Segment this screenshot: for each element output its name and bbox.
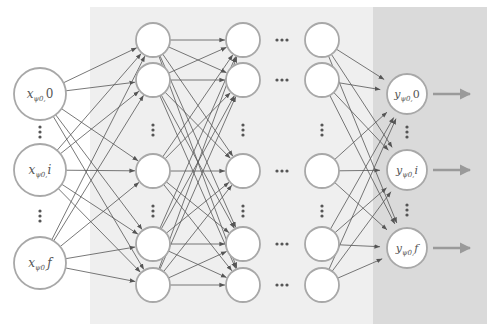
vertical-ellipsis-icon [241,214,244,217]
vertical-ellipsis-icon [405,135,408,138]
vertical-ellipsis-icon [38,125,41,128]
hidden-node-c0-r1 [136,63,170,97]
output-node-yi [387,150,427,190]
vertical-ellipsis-icon [405,203,408,206]
horizontal-ellipsis-icon [280,169,283,172]
horizontal-ellipsis-icon [280,38,283,41]
input-node-xi [14,144,66,196]
vertical-ellipsis-icon [241,123,244,126]
vertical-ellipsis-icon [38,130,41,133]
input-node-x0 [14,68,66,120]
vertical-ellipsis-icon [38,135,41,138]
vertical-ellipsis-icon [241,133,244,136]
vertical-ellipsis-icon [320,214,323,217]
vertical-ellipsis-icon [151,128,154,131]
hidden-node-c2-r1 [305,63,339,97]
vertical-ellipsis-icon [405,208,408,211]
vertical-ellipsis-icon [151,123,154,126]
horizontal-ellipsis-icon [285,169,288,172]
hidden-node-c2-r0 [305,23,339,57]
horizontal-ellipsis-icon [285,78,288,81]
horizontal-ellipsis-icon [275,78,278,81]
horizontal-ellipsis-icon [280,283,283,286]
vertical-ellipsis-icon [241,204,244,207]
hidden-node-c2-r2 [305,154,339,188]
hidden-node-c1-r4 [226,268,260,302]
hidden-node-c2-r4 [305,268,339,302]
input-node-xf [14,237,66,289]
horizontal-ellipsis-icon [275,283,278,286]
horizontal-ellipsis-icon [280,242,283,245]
vertical-ellipsis-icon [241,209,244,212]
vertical-ellipsis-icon [38,209,41,212]
vertical-ellipsis-icon [405,125,408,128]
horizontal-ellipsis-icon [280,78,283,81]
vertical-ellipsis-icon [320,128,323,131]
horizontal-ellipsis-icon [285,283,288,286]
neural-network-diagram: xψ0,0xψ0,ixψ0,fyψ0,0yψ0,iyψ0,f [0,0,494,332]
horizontal-ellipsis-icon [285,38,288,41]
vertical-ellipsis-icon [405,130,408,133]
vertical-ellipsis-icon [38,219,41,222]
hidden-node-c1-r2 [226,154,260,188]
vertical-ellipsis-icon [151,209,154,212]
hidden-node-c1-r0 [226,23,260,57]
horizontal-ellipsis-icon [275,169,278,172]
hidden-node-c0-r0 [136,23,170,57]
hidden-node-c1-r3 [226,227,260,261]
vertical-ellipsis-icon [320,133,323,136]
horizontal-ellipsis-icon [285,242,288,245]
vertical-ellipsis-icon [405,213,408,216]
vertical-ellipsis-icon [151,204,154,207]
hidden-node-c1-r1 [226,63,260,97]
vertical-ellipsis-icon [151,133,154,136]
vertical-ellipsis-icon [320,209,323,212]
horizontal-ellipsis-icon [275,38,278,41]
vertical-ellipsis-icon [320,123,323,126]
output-node-y0 [387,74,427,114]
hidden-node-c0-r4 [136,268,170,302]
hidden-node-c0-r3 [136,227,170,261]
output-node-yf [387,228,427,268]
vertical-ellipsis-icon [151,214,154,217]
horizontal-ellipsis-icon [275,242,278,245]
hidden-node-c0-r2 [136,154,170,188]
vertical-ellipsis-icon [38,214,41,217]
hidden-node-c2-r3 [305,227,339,261]
vertical-ellipsis-icon [320,204,323,207]
vertical-ellipsis-icon [241,128,244,131]
